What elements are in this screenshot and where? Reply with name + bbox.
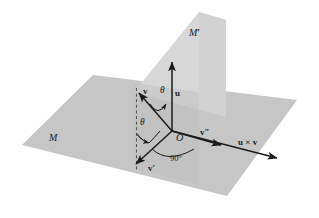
vector-u-label: u xyxy=(175,89,180,98)
diagram-canvas xyxy=(0,0,319,218)
vector-v-prime-mark: ′ xyxy=(153,163,156,173)
vector-v-double-prime-label: v″ xyxy=(200,128,209,137)
theta-upper-label: θ xyxy=(160,86,165,96)
plane-m-label: M xyxy=(49,133,57,143)
vector-u-cross-v-label: u × v xyxy=(238,138,257,147)
vector-v-label: v xyxy=(143,87,148,96)
vector-v-prime-label: v′ xyxy=(148,164,155,173)
vector-cross-product-diagram: M M′ v θ u θ v′ O 90° v″ u × v xyxy=(0,0,319,218)
origin-label: O xyxy=(176,133,183,143)
vertical-plane-front-wedge xyxy=(199,12,226,117)
plane-m-prime-mark: ′ xyxy=(197,27,200,38)
plane-m-prime-label: M′ xyxy=(189,28,200,38)
theta-lower-label: θ xyxy=(140,118,145,128)
vector-v-double-prime-mark: ″ xyxy=(205,127,210,137)
right-angle-label: 90° xyxy=(170,154,182,163)
